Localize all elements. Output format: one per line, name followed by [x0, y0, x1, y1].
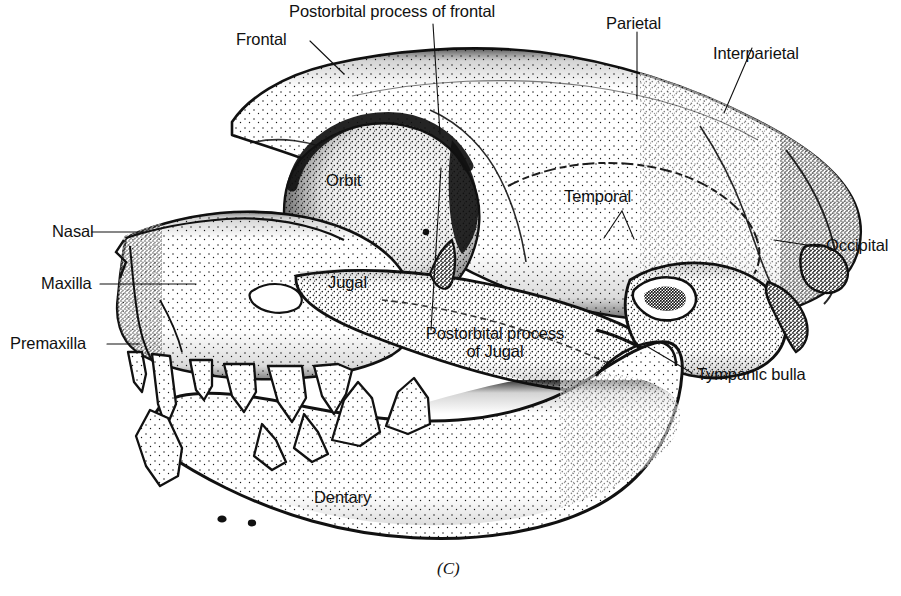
skull-figure: Frontal Postorbital process of frontal P…	[0, 0, 901, 596]
label-postorbital-process-of-jugal-line2: of Jugal	[467, 342, 524, 360]
upper-incisor-1	[128, 352, 146, 392]
label-postorbital-process-of-frontal: Postorbital process of frontal	[289, 2, 495, 20]
label-postorbital-process-of-jugal-line1: Postorbital process	[426, 324, 564, 342]
mental-foramen-1	[217, 515, 226, 522]
label-temporal: Temporal	[564, 187, 631, 205]
label-parietal: Parietal	[606, 14, 661, 32]
jugal-foramen	[423, 229, 429, 235]
lower-molar-1	[386, 378, 430, 434]
figure-caption: (C)	[437, 559, 460, 579]
label-maxilla: Maxilla	[41, 274, 92, 292]
label-jugal: Jugal	[328, 273, 367, 291]
skull-illustration	[0, 0, 901, 596]
label-postorbital-process-of-jugal: Postorbital process of Jugal	[404, 324, 586, 361]
label-tympanic-bulla: Tympanic bulla	[697, 365, 806, 383]
label-nasal: Nasal	[52, 222, 94, 240]
label-premaxilla: Premaxilla	[10, 334, 86, 352]
label-occipital: Occipital	[826, 236, 888, 254]
label-dentary: Dentary	[314, 488, 371, 506]
label-orbit: Orbit	[326, 171, 361, 189]
label-interparietal: Interparietal	[713, 44, 799, 62]
mental-foramen-2	[248, 520, 256, 527]
label-frontal: Frontal	[236, 30, 287, 48]
